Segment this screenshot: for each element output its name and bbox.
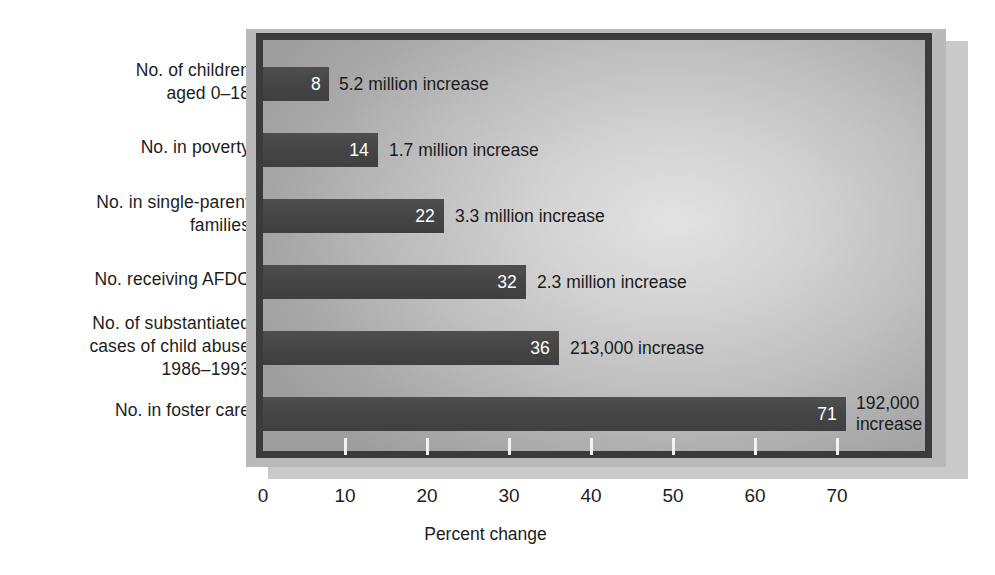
axis-tick-mark — [590, 438, 593, 455]
category-label: No. in single-parent families — [0, 191, 250, 237]
bar-annotation: 5.2 million increase — [339, 74, 489, 95]
bar-row: 71 192,000 increase — [263, 397, 925, 431]
x-axis-title: Percent change — [0, 523, 995, 545]
category-label: No. of substantiated cases of child abus… — [0, 312, 250, 381]
x-axis-tick-label: 50 — [662, 484, 683, 508]
x-axis-tick-label: 60 — [744, 484, 765, 508]
category-label: No. in foster care — [0, 399, 250, 422]
axis-tick-mark — [508, 438, 511, 455]
x-axis-tick-label: 0 — [258, 484, 269, 508]
x-axis-tick-label: 20 — [416, 484, 437, 508]
x-axis-tick-label: 10 — [334, 484, 355, 508]
bar-value-label: 32 — [263, 272, 517, 292]
bar-value-label: 8 — [263, 74, 321, 94]
x-axis-tick-label: 40 — [580, 484, 601, 508]
category-label: No. in poverty — [0, 136, 250, 159]
x-axis-tick-label: 70 — [826, 484, 847, 508]
bar-annotation: 192,000 increase — [856, 393, 922, 435]
bar-annotation: 3.3 million increase — [455, 206, 605, 227]
category-label: No. receiving AFDC — [0, 268, 250, 291]
bar-annotation: 213,000 increase — [570, 338, 704, 359]
axis-tick-mark — [754, 438, 757, 455]
bar-annotation: 1.7 million increase — [389, 140, 539, 161]
axis-tick-mark — [426, 438, 429, 455]
category-axis: No. of children aged 0–18 No. in poverty… — [0, 0, 250, 480]
plot-panel: 8 5.2 million increase 14 1.7 million in… — [256, 33, 932, 458]
axis-tick-mark — [836, 438, 839, 455]
bar-value-label: 71 — [263, 404, 837, 424]
x-axis-title-text: Percent change — [424, 524, 547, 544]
bar-value-label: 14 — [263, 140, 369, 160]
plot-area: 8 5.2 million increase 14 1.7 million in… — [263, 40, 925, 451]
bar-value-label: 22 — [263, 206, 435, 226]
bar-row: 14 1.7 million increase — [263, 133, 925, 167]
bar-row: 8 5.2 million increase — [263, 67, 925, 101]
bar-row: 22 3.3 million increase — [263, 199, 925, 233]
bar-annotation: 2.3 million increase — [537, 272, 687, 293]
axis-tick-mark — [672, 438, 675, 455]
category-label: No. of children aged 0–18 — [0, 59, 250, 105]
x-axis-tick-label: 30 — [498, 484, 519, 508]
axis-tick-mark — [344, 438, 347, 455]
chart-figure: No. of children aged 0–18 No. in poverty… — [0, 0, 995, 575]
bar-row: 32 2.3 million increase — [263, 265, 925, 299]
bar-value-label: 36 — [263, 338, 550, 358]
x-axis-tick-labels: 0 10 20 30 40 50 60 70 — [0, 484, 995, 514]
bar-row: 36 213,000 increase — [263, 331, 925, 365]
